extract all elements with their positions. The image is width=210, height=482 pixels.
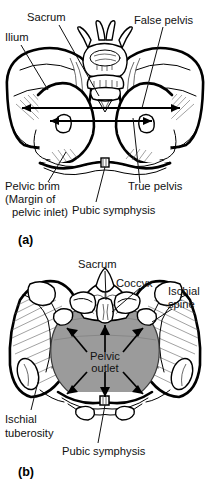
label-pelvic-brim-line1: Pelvic brim [5, 180, 60, 192]
label-pelvic-brim-line3: pelvic inlet) [12, 206, 68, 218]
label-true-pelvis: True pelvis [128, 180, 183, 192]
label-ischial-tuberosity-line2: tuberosity [5, 427, 54, 439]
leader-pubic-symphysis-b [98, 405, 105, 443]
label-pelvic-outlet-line2: outlet [91, 362, 119, 374]
leader-pubic-symphysis-a [96, 167, 105, 202]
panel-a-illustration [7, 21, 203, 202]
label-false-pelvis: False pelvis [134, 14, 193, 26]
label-ischial-tuberosity-line1: Ischial [5, 413, 37, 425]
label-ischial-spine-line1: Ischial [168, 285, 200, 297]
label-coccyx: Coccyx [116, 277, 153, 289]
label-sacrum-b: Sacrum [78, 258, 117, 270]
label-pubic-symphysis-a: Pubic symphysis [72, 204, 156, 216]
panel-b-tag: (b) [18, 465, 34, 479]
pelvis-anatomy-figure: Sacrum Ilium False pelvis Pelvic brim (M… [0, 0, 210, 482]
label-sacrum-a: Sacrum [27, 11, 66, 23]
label-pelvic-outlet-line1: Pelvic [90, 350, 120, 362]
label-pelvic-brim-line2: (Margin of [5, 193, 56, 205]
label-ilium: Ilium [5, 31, 29, 43]
label-pubic-symphysis-b: Pubic symphysis [62, 445, 146, 457]
label-ischial-spine-line2: spine [168, 298, 195, 310]
panel-a-tag: (a) [18, 233, 33, 247]
